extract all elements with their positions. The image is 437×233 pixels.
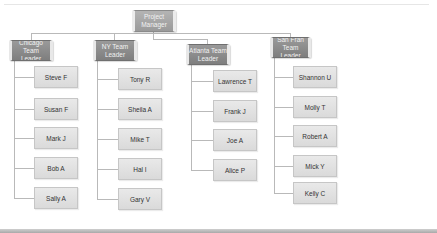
connector-main-horizontal [31, 33, 291, 34]
branch [274, 136, 293, 137]
branch [274, 107, 293, 108]
team-leader-node-sanfran[interactable]: San Fran Team Leader [270, 37, 311, 58]
branch [14, 198, 34, 199]
member-node[interactable]: Gary V [118, 188, 162, 210]
top-divider [4, 4, 429, 5]
connector-atlanta-horizontal [153, 39, 208, 40]
spine-ny [97, 60, 98, 199]
branch [14, 77, 34, 78]
member-node[interactable]: Frank J [213, 100, 257, 122]
branch [14, 109, 34, 110]
branch [14, 168, 34, 169]
branch [97, 169, 118, 170]
member-node[interactable]: Mick Y [293, 155, 337, 177]
member-node[interactable]: Sally A [34, 187, 78, 209]
branch [14, 138, 34, 139]
branch [97, 199, 118, 200]
member-node[interactable]: Steve F [34, 66, 78, 88]
member-node[interactable]: Alice P [213, 159, 257, 181]
project-manager-node[interactable]: Project Manager [132, 10, 176, 32]
team-leader-node-ny[interactable]: NY Team Leader [93, 40, 137, 61]
member-node[interactable]: Mike T [118, 128, 162, 150]
branch [191, 170, 213, 171]
branch [274, 166, 293, 167]
branch [97, 139, 118, 140]
member-node[interactable]: Lawrence T [213, 70, 257, 92]
branch [274, 193, 293, 194]
spine-atlanta [191, 63, 192, 171]
member-node[interactable]: Mark J [34, 127, 78, 149]
member-node[interactable]: Molly T [293, 96, 337, 118]
member-node[interactable]: Bob A [34, 157, 78, 179]
bottom-border [0, 229, 437, 233]
team-leader-node-chicago[interactable]: Chicago Team Leader [9, 40, 53, 61]
branch [97, 109, 118, 110]
spine-sanfran [274, 58, 275, 194]
member-node[interactable]: Joe A [213, 129, 257, 151]
member-node[interactable]: Susan F [34, 98, 78, 120]
branch [191, 81, 213, 82]
team-leader-node-atlanta[interactable]: Atlanta Team Leader [186, 44, 230, 65]
member-node[interactable]: Tony R [118, 68, 162, 90]
member-node[interactable]: Sheila A [118, 98, 162, 120]
branch [191, 111, 213, 112]
spine-chicago [14, 60, 15, 198]
member-node[interactable]: Hal I [118, 158, 162, 180]
branch [274, 77, 293, 78]
member-node[interactable]: Kelly C [293, 182, 337, 204]
branch [97, 79, 118, 80]
member-node[interactable]: Robert A [293, 125, 337, 147]
member-node[interactable]: Shannon U [293, 66, 337, 88]
branch [191, 140, 213, 141]
